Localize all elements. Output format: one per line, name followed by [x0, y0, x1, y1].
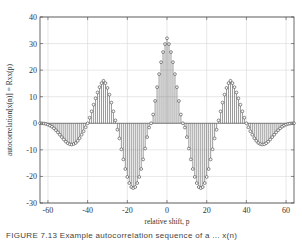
stem-point	[164, 43, 167, 124]
stem-marker	[213, 137, 216, 140]
stem-marker	[96, 91, 99, 94]
stem-marker	[181, 122, 184, 125]
stem-marker	[142, 158, 145, 161]
y-tick-label: -30	[26, 199, 37, 208]
stem-marker	[187, 147, 190, 150]
x-axis-label: relative shift, p	[144, 217, 189, 226]
stem-marker	[205, 176, 208, 179]
stem-point	[86, 122, 89, 125]
y-tick-label: 20	[29, 66, 37, 75]
stem-point	[223, 93, 226, 123]
stem-marker	[138, 176, 141, 179]
stem-marker	[195, 182, 198, 185]
stem-point	[275, 123, 278, 133]
stem-marker	[160, 61, 163, 64]
stem-point	[229, 79, 232, 123]
stem-marker	[241, 110, 244, 113]
stem-marker	[140, 168, 143, 171]
stem-marker	[203, 182, 206, 185]
stem-marker	[172, 61, 175, 64]
stem-point	[179, 113, 182, 123]
stem-marker	[201, 186, 204, 189]
stem-point	[62, 123, 65, 141]
stem-marker	[116, 128, 119, 131]
stem-marker	[84, 126, 87, 129]
stem-marker	[225, 87, 228, 90]
stem-marker	[106, 87, 109, 90]
stem-point	[56, 123, 59, 133]
stem-point	[189, 123, 192, 161]
autocorrelation-chart: -60-40-200204060 -30-20-10010203040 rela…	[0, 0, 302, 241]
stem-point	[92, 103, 95, 123]
stem-point	[140, 123, 143, 170]
stem-marker	[152, 113, 155, 116]
stem-marker	[193, 176, 196, 179]
stem-marker	[112, 110, 115, 113]
stem-marker	[245, 122, 248, 125]
stem-marker	[239, 103, 242, 106]
stem-marker	[183, 126, 186, 129]
y-tick-label: 30	[29, 40, 37, 49]
stem-point	[261, 123, 264, 146]
stem-marker	[158, 73, 161, 76]
stem-point	[253, 123, 256, 139]
stem-point	[78, 123, 81, 139]
stem-marker	[221, 101, 224, 104]
stem-point	[128, 123, 131, 184]
stem-point	[174, 73, 177, 124]
stem-point	[116, 123, 119, 131]
stem-marker	[86, 122, 89, 125]
stem-point	[255, 123, 258, 142]
stem-point	[122, 123, 125, 161]
stem-marker	[104, 82, 107, 85]
stem-point	[58, 123, 61, 136]
stem-marker	[136, 182, 139, 185]
stem-point	[185, 123, 188, 138]
stem-point	[150, 122, 153, 125]
stem-marker	[211, 148, 214, 151]
stem-marker	[176, 86, 179, 89]
stem-point	[203, 123, 206, 184]
stem-point	[154, 100, 157, 124]
y-axis-label: autocorrelation[x(n)] = Rxx(p)	[5, 63, 14, 156]
stem-marker	[146, 136, 149, 139]
stem-point	[146, 123, 149, 138]
stem-point	[213, 123, 216, 140]
stem-point	[106, 87, 109, 124]
stem-marker	[243, 116, 246, 119]
stem-marker	[249, 130, 252, 133]
y-axis-ticks: -30-20-10010203040	[26, 13, 294, 208]
stem-marker	[110, 101, 113, 104]
stem-point	[134, 123, 137, 188]
stem-point	[152, 113, 155, 123]
stem-marker	[156, 86, 159, 89]
stem-point	[245, 122, 248, 125]
stem-point	[239, 103, 242, 123]
stem-marker	[209, 158, 212, 161]
y-tick-label: 0	[33, 119, 37, 128]
stem-marker	[162, 51, 165, 54]
x-tick-label: -20	[122, 206, 133, 215]
stem-point	[197, 123, 200, 188]
stem-marker	[80, 133, 83, 136]
stem-marker	[207, 168, 210, 171]
stem-point	[130, 123, 133, 188]
x-axis-ticks: -60-40-200204060	[43, 17, 290, 215]
stem-marker	[150, 122, 153, 125]
stem-marker	[253, 137, 256, 140]
x-tick-label: 20	[203, 206, 211, 215]
x-tick-label: -60	[43, 206, 54, 215]
stem-point	[176, 86, 179, 124]
stem-marker	[118, 137, 121, 140]
stem-marker	[164, 43, 167, 46]
stem-marker	[189, 158, 192, 161]
stem-marker	[178, 100, 181, 103]
y-tick-label: -20	[26, 172, 37, 181]
stem-point	[80, 123, 83, 136]
stem-marker	[179, 113, 182, 116]
stem-marker	[223, 93, 226, 96]
stem-point	[235, 91, 238, 123]
stem-point	[191, 123, 194, 170]
stem-marker	[247, 126, 250, 129]
stem-marker	[134, 186, 137, 189]
